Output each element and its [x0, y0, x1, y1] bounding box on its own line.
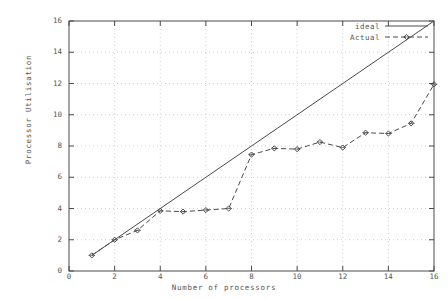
- y-tick-label: 14: [38, 47, 62, 56]
- x-tick-label: 2: [103, 272, 127, 281]
- y-axis-title: Processor Utilisation: [24, 30, 33, 190]
- x-tick-label: 16: [422, 272, 446, 281]
- legend-label-actual: Actual: [310, 33, 380, 42]
- x-tick-label: 4: [148, 272, 172, 281]
- series-line-actual: [92, 84, 434, 255]
- x-tick-label: 6: [194, 272, 218, 281]
- x-tick-label: 10: [285, 272, 309, 281]
- x-tick-label: 12: [331, 272, 355, 281]
- x-axis-title: Number of processors: [0, 283, 448, 292]
- x-tick-label: 0: [57, 272, 81, 281]
- x-tick-label: 14: [376, 272, 400, 281]
- series-line-ideal: [92, 21, 434, 255]
- y-tick-label: 4: [38, 204, 62, 213]
- y-tick-label: 10: [38, 110, 62, 119]
- chart-canvas: [0, 0, 448, 301]
- y-tick-label: 2: [38, 235, 62, 244]
- y-tick-label: 16: [38, 16, 62, 25]
- chart-figure: 0246810121416 0246810121416 Processor Ut…: [0, 0, 448, 301]
- y-tick-label: 8: [38, 141, 62, 150]
- legend-label-ideal: ideal: [310, 22, 380, 31]
- y-tick-label: 12: [38, 79, 62, 88]
- y-tick-label: 6: [38, 172, 62, 181]
- series-markers-actual: [89, 82, 438, 258]
- legend-keys: [385, 26, 428, 40]
- x-tick-label: 8: [240, 272, 264, 281]
